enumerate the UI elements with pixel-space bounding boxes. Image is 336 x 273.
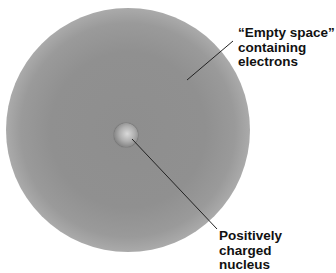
- electron-leader-line: [187, 41, 233, 80]
- nucleus-leader-line: [132, 139, 217, 229]
- label-line: “Empty space”: [238, 26, 335, 41]
- electron-cloud-label: “Empty space” containing electrons: [238, 26, 335, 70]
- label-line: electrons: [238, 55, 335, 70]
- label-line: containing: [238, 41, 335, 56]
- nucleus-label: Positively charged nucleus: [219, 229, 336, 273]
- label-line: Positively charged: [219, 229, 336, 258]
- label-line: nucleus: [219, 258, 336, 273]
